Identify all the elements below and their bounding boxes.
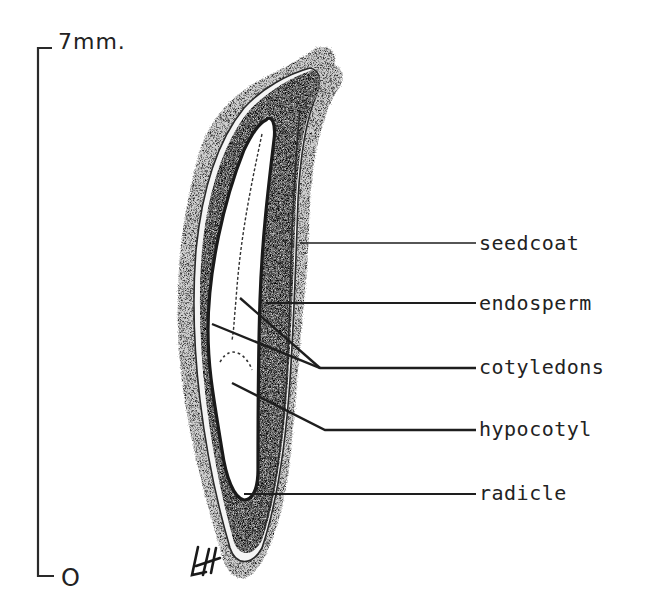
label-hypocotyl: hypocotyl — [479, 419, 592, 439]
seed — [178, 47, 343, 578]
scale-bar — [38, 48, 54, 576]
label-seedcoat: seedcoat — [479, 233, 579, 253]
scale-bar-line — [38, 48, 54, 576]
label-endosperm: endosperm — [479, 293, 592, 313]
scale-min-label: O — [61, 566, 80, 590]
label-cotyledons: cotyledons — [479, 357, 604, 377]
scale-max-label: 7mm. — [58, 31, 126, 53]
label-radicle: radicle — [479, 483, 567, 503]
artist-signature — [192, 547, 220, 575]
